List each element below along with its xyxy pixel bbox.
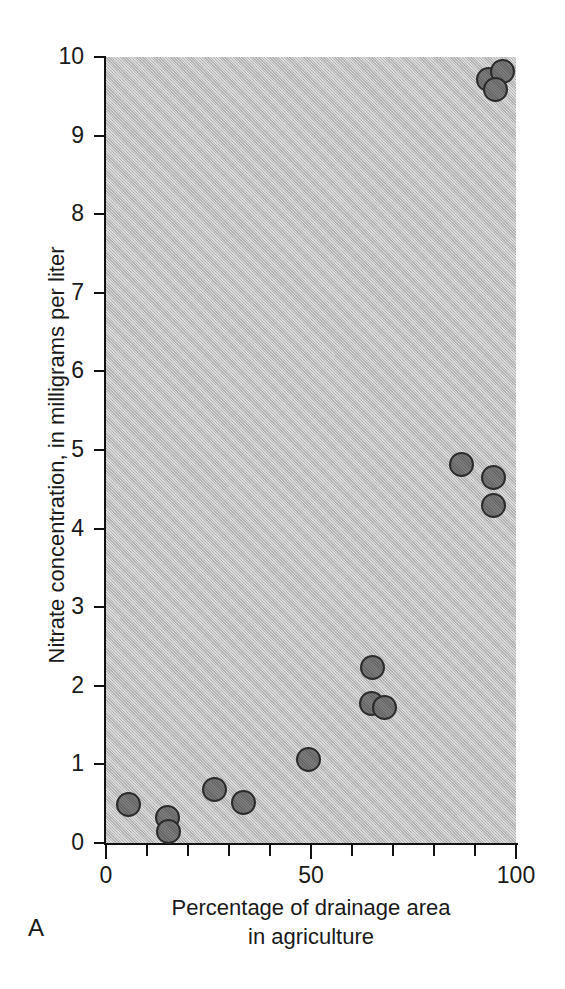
x-tick-20 bbox=[187, 845, 189, 856]
data-point bbox=[449, 452, 474, 477]
x-tick-30 bbox=[228, 845, 230, 856]
y-tick-8 bbox=[94, 213, 105, 215]
y-tick-7 bbox=[94, 292, 105, 294]
x-axis-title-line1: Percentage of drainage area bbox=[106, 893, 516, 922]
data-point bbox=[372, 695, 397, 720]
y-tick-10 bbox=[94, 56, 105, 58]
x-tick-70 bbox=[392, 845, 394, 856]
x-tick-0 bbox=[105, 845, 107, 859]
x-tick-label-50: 50 bbox=[271, 862, 351, 888]
y-tick-label-10: 10 bbox=[38, 45, 84, 68]
x-tick-90 bbox=[474, 845, 476, 856]
x-tick-100 bbox=[515, 845, 517, 859]
y-tick-6 bbox=[94, 370, 105, 372]
y-tick-0 bbox=[94, 842, 105, 844]
x-tick-label-100: 100 bbox=[476, 862, 556, 888]
x-tick-10 bbox=[146, 845, 148, 856]
y-tick-label-9: 9 bbox=[38, 124, 84, 147]
scatter-plot-figure: 012345678910 050100 Nitrate concentratio… bbox=[0, 0, 565, 989]
y-tick-5 bbox=[94, 449, 105, 451]
x-tick-80 bbox=[433, 845, 435, 856]
data-point bbox=[116, 792, 141, 817]
y-tick-9 bbox=[94, 135, 105, 137]
y-axis-title: Nitrate concentration, in milligrams per… bbox=[45, 145, 69, 765]
y-tick-label-0: 0 bbox=[38, 831, 84, 854]
x-axis-title: Percentage of drainage area in agricultu… bbox=[106, 893, 516, 951]
plot-area bbox=[106, 57, 516, 843]
y-tick-3 bbox=[94, 606, 105, 608]
x-tick-50 bbox=[310, 845, 312, 859]
data-point bbox=[481, 465, 506, 490]
x-tick-60 bbox=[351, 845, 353, 856]
y-tick-2 bbox=[94, 685, 105, 687]
x-axis-title-line2: in agriculture bbox=[106, 922, 516, 951]
y-tick-1 bbox=[94, 763, 105, 765]
data-point bbox=[156, 819, 181, 844]
y-tick-4 bbox=[94, 528, 105, 530]
panel-label: A bbox=[28, 916, 44, 940]
data-point bbox=[483, 77, 508, 102]
x-tick-40 bbox=[269, 845, 271, 856]
data-point bbox=[481, 493, 506, 518]
x-tick-label-0: 0 bbox=[66, 862, 146, 888]
